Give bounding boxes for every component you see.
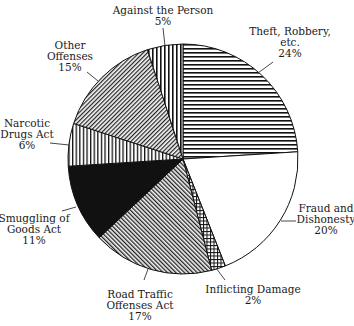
leader-smuggling (62, 207, 76, 211)
slice-label: Road TrafficOffenses Act17% (106, 288, 174, 322)
leader-narcotic (50, 143, 69, 145)
pie-chart: Theft, Robbery,etc.24%Fraud andDishonest… (0, 0, 354, 326)
leader-other (87, 72, 98, 81)
pie-slice-theft-robbery-etc (183, 44, 298, 159)
slice-label: NarcoticDrugs Act6% (0, 117, 54, 151)
pie-slices (68, 44, 298, 274)
leader-road (144, 269, 148, 280)
slice-label: Smuggling ofGoods Act11% (0, 212, 71, 246)
slice-label: OtherOffenses15% (47, 39, 93, 73)
leader-theft (258, 62, 273, 73)
slice-label: Theft, Robbery,etc.24% (249, 25, 331, 59)
leader-inflicting (216, 268, 225, 280)
slice-label: Fraud andDishonesty20% (297, 202, 354, 236)
slice-label: Inflicting Damage2% (205, 283, 300, 306)
leader-against (163, 28, 165, 46)
slice-label: Against the Person5% (112, 4, 214, 27)
